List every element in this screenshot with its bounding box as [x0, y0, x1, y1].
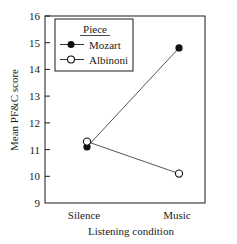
legend-marker-albinoni — [68, 56, 75, 63]
y-tick-12: 12 — [29, 117, 40, 129]
y-tick-9: 9 — [35, 197, 41, 209]
y-tick-16: 16 — [29, 10, 41, 22]
y-tick-14: 14 — [29, 63, 41, 75]
x-tick-silence: Silence — [68, 209, 100, 221]
y-tick-labels: 16 15 14 13 12 11 10 9 — [29, 10, 41, 209]
legend-title: Piece — [83, 23, 107, 35]
x-axis-title: Listening condition — [88, 225, 174, 237]
series-albinoni — [83, 138, 182, 177]
chart: 16 15 14 13 12 11 10 9 Mean PF&C score S… — [0, 0, 237, 244]
y-tick-10: 10 — [29, 170, 41, 182]
y-axis — [45, 16, 50, 176]
point-albinoni-music — [175, 170, 182, 177]
y-axis-title: Mean PF&C score — [8, 69, 20, 151]
legend-label-albinoni: Albinoni — [89, 54, 128, 66]
y-tick-11: 11 — [29, 144, 40, 156]
point-mozart-music — [175, 44, 182, 51]
legend-marker-mozart — [68, 41, 75, 48]
point-albinoni-silence — [83, 138, 90, 145]
legend-label-mozart: Mozart — [89, 39, 121, 51]
y-tick-15: 15 — [29, 37, 41, 49]
x-tick-music: Music — [163, 209, 191, 221]
y-tick-13: 13 — [29, 90, 41, 102]
legend: Piece Mozart Albinoni — [55, 19, 133, 71]
